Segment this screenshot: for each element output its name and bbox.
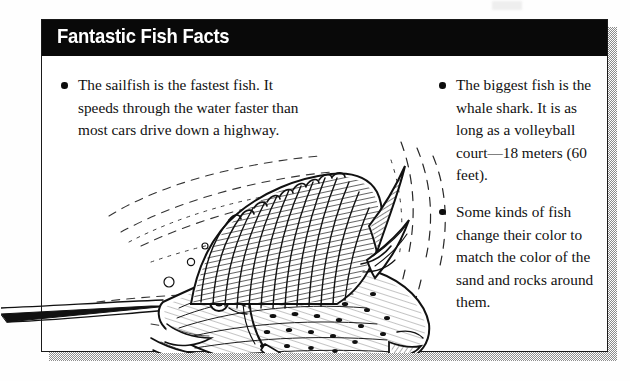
bullet-icon bbox=[439, 209, 446, 216]
list-item: The biggest fish is the whale shark. It … bbox=[438, 74, 600, 187]
bullet-icon bbox=[439, 82, 446, 89]
fantastic-fish-facts-box: Fantastic Fish Facts bbox=[41, 19, 608, 352]
list-item: The sailfish is the fastest fish. It spe… bbox=[60, 74, 308, 142]
bullet-icon bbox=[61, 82, 68, 89]
fact-column-left: The sailfish is the fastest fish. It spe… bbox=[60, 74, 308, 142]
factbox-body: The sailfish is the fastest fish. It spe… bbox=[42, 56, 607, 351]
fact-text: Some kinds of fish change their color to… bbox=[456, 201, 600, 314]
fact-text: The biggest fish is the whale shark. It … bbox=[456, 74, 600, 187]
fact-column-right: The biggest fish is the whale shark. It … bbox=[438, 74, 600, 314]
page-title: Fantastic Fish Facts bbox=[57, 24, 229, 48]
scan-artifact-smudge bbox=[492, 1, 522, 10]
factbox-header-band: Fantastic Fish Facts bbox=[42, 20, 607, 56]
list-item: Some kinds of fish change their color to… bbox=[438, 201, 600, 314]
fact-text: The sailfish is the fastest fish. It spe… bbox=[78, 74, 308, 142]
